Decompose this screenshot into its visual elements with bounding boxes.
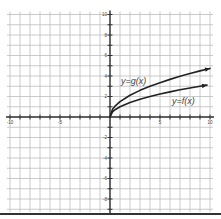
svg-text:10: 10 — [102, 12, 108, 17]
svg-text:-4: -4 — [103, 156, 107, 161]
svg-text:-5: -5 — [58, 120, 62, 125]
svg-text:-10: -10 — [7, 120, 14, 125]
svg-text:10: 10 — [207, 120, 213, 125]
svg-text:-8: -8 — [103, 197, 107, 202]
axes — [6, 11, 214, 214]
label-g: y=g(x) — [120, 76, 146, 86]
svg-text:5: 5 — [159, 120, 162, 125]
label-f: y=f(x) — [171, 96, 195, 106]
bottom-border — [0, 213, 221, 215]
svg-text:-2: -2 — [103, 135, 107, 140]
svg-text:-6: -6 — [103, 176, 107, 181]
coordinate-plane: -10-5510108642-2-4-6-8 y=g(x) y=f(x) — [0, 0, 221, 219]
